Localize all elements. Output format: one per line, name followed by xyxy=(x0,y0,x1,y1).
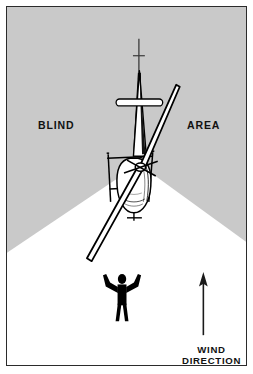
wind-direction-label-line-1: WIND xyxy=(182,344,241,355)
figure-frame: BLIND AREA WIND DIRECTION xyxy=(6,6,247,366)
horizontal-stabilizer xyxy=(116,99,163,106)
blind-area-label-right: AREA xyxy=(187,119,220,131)
diagram-scene xyxy=(7,7,246,365)
person-head xyxy=(118,274,126,284)
figure-root: BLIND AREA WIND DIRECTION xyxy=(0,0,253,374)
wind-direction-label: WIND DIRECTION xyxy=(182,344,241,366)
person-torso xyxy=(118,284,127,305)
wind-direction-label-line-2: DIRECTION xyxy=(182,355,241,366)
blind-area-label-left: BLIND xyxy=(38,119,75,131)
